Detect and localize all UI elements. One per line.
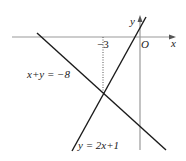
diagram-canvas: y x O −3 x+y = −8 y = 2x+1 xyxy=(0,0,186,161)
tick-label-neg3: −3 xyxy=(97,38,109,50)
line-x-plus-y-eq-neg8 xyxy=(37,33,166,150)
line2-label: y = 2x+1 xyxy=(77,139,119,151)
origin-label: O xyxy=(141,38,149,50)
y-axis-label: y xyxy=(129,15,135,27)
line1-label: x+y = −8 xyxy=(26,68,71,80)
coordinate-diagram: y x O −3 x+y = −8 y = 2x+1 xyxy=(0,0,186,161)
y-axis-arrow-icon xyxy=(138,15,143,22)
x-axis-label: x xyxy=(170,37,176,49)
